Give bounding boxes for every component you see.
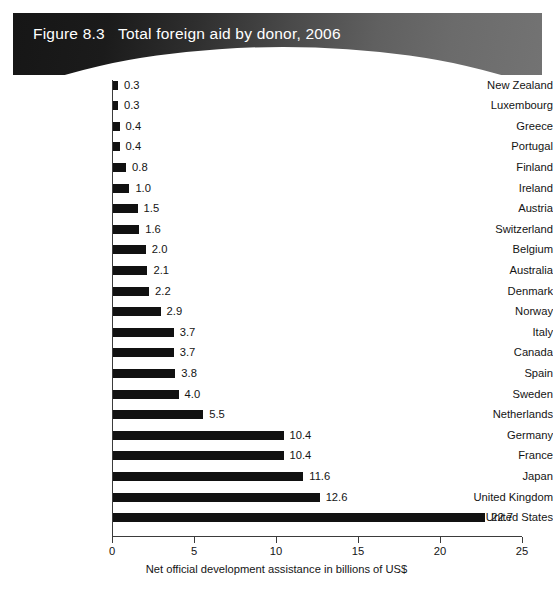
category-label: Netherlands (449, 409, 553, 420)
bar-value-label: 3.8 (181, 368, 197, 379)
bar (113, 101, 118, 110)
bar (113, 225, 139, 234)
category-label: Switzerland (449, 224, 553, 235)
x-axis-tick (522, 537, 523, 543)
x-axis-title: Net official development assistance in b… (0, 563, 553, 575)
bar (113, 410, 203, 419)
x-axis-tick (112, 537, 113, 543)
bar (113, 204, 138, 213)
bar-value-label: 1.6 (145, 224, 161, 235)
bar-value-label: 0.4 (126, 141, 142, 152)
category-label: United States (449, 512, 553, 523)
x-axis-tick (194, 537, 195, 543)
bar (113, 369, 175, 378)
bar (113, 142, 120, 151)
category-label: Germany (449, 430, 553, 441)
category-label: Greece (449, 121, 553, 132)
bar (113, 431, 284, 440)
bar-value-label: 2.2 (155, 286, 171, 297)
x-axis-tick-label: 5 (191, 546, 197, 557)
bar-value-label: 0.4 (126, 121, 142, 132)
category-label: Norway (449, 306, 553, 317)
bar-value-label: 0.8 (132, 162, 148, 173)
category-label: Italy (449, 327, 553, 338)
bar-value-label: 0.3 (124, 100, 140, 111)
bar-value-label: 4.0 (185, 389, 201, 400)
bar (113, 287, 149, 296)
bar-value-label: 1.5 (144, 203, 160, 214)
bar (113, 122, 120, 131)
category-label: Belgium (449, 244, 553, 255)
bar-value-label: 2.0 (152, 244, 168, 255)
bar (113, 245, 146, 254)
category-label: Sweden (449, 389, 553, 400)
category-label: Spain (449, 368, 553, 379)
x-axis-tick-label: 20 (434, 546, 446, 557)
category-label: Portugal (449, 141, 553, 152)
bar-value-label: 5.5 (209, 409, 225, 420)
bar (113, 307, 161, 316)
bar-value-label: 2.1 (153, 265, 169, 276)
category-label: France (449, 450, 553, 461)
x-axis-tick (358, 537, 359, 543)
bar (113, 81, 118, 90)
bar (113, 163, 126, 172)
bar (113, 390, 179, 399)
bar (113, 184, 129, 193)
category-label: Denmark (449, 286, 553, 297)
bar (113, 451, 284, 460)
bar (113, 348, 174, 357)
category-label: Luxembourg (449, 100, 553, 111)
x-axis-tick-label: 15 (352, 546, 364, 557)
bar-value-label: 10.4 (290, 430, 312, 441)
bar-value-label: 3.7 (180, 327, 196, 338)
x-axis-tick-label: 10 (270, 546, 282, 557)
x-axis-tick-label: 25 (516, 546, 528, 557)
x-axis-line (112, 536, 522, 537)
x-axis-tick (440, 537, 441, 543)
bar-value-label: 2.9 (167, 306, 183, 317)
category-label: Japan (449, 471, 553, 482)
category-label: Australia (449, 265, 553, 276)
bar-value-label: 1.0 (135, 183, 151, 194)
bar (113, 472, 303, 481)
category-label: United Kingdom (449, 492, 553, 503)
x-axis-tick-label: 0 (109, 546, 115, 557)
bar-value-label: 3.7 (180, 347, 196, 358)
bar-value-label: 0.3 (124, 80, 140, 91)
x-axis-tick (276, 537, 277, 543)
bar-value-label: 12.6 (326, 492, 348, 503)
bar (113, 328, 174, 337)
bar (113, 513, 485, 522)
category-label: New Zealand (449, 80, 553, 91)
bar (113, 266, 147, 275)
bar (113, 493, 320, 502)
bar-chart: 0.30.30.40.40.81.01.51.62.02.12.22.93.73… (0, 0, 553, 591)
category-label: Ireland (449, 183, 553, 194)
bar-value-label: 11.6 (309, 471, 330, 482)
category-label: Austria (449, 203, 553, 214)
category-label: Finland (449, 162, 553, 173)
category-label: Canada (449, 347, 553, 358)
bar-value-label: 10.4 (290, 450, 312, 461)
